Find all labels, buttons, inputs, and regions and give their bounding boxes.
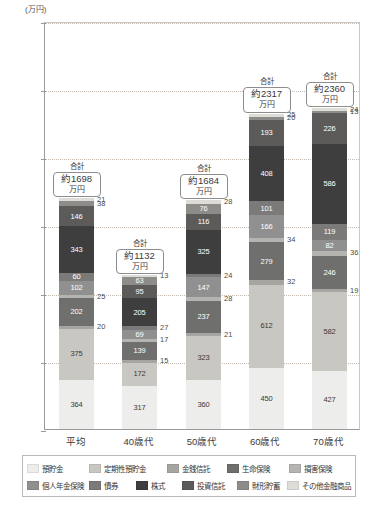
- bar-segment[interactable]: 63: [122, 277, 157, 286]
- bar-segment[interactable]: 226: [312, 113, 347, 144]
- bar-segment[interactable]: 237: [186, 301, 221, 333]
- bar-segment[interactable]: 20: [249, 117, 284, 120]
- chart-root: (万円) 3643752020225102603431463821合計約1698…: [0, 0, 376, 505]
- bar-segment[interactable]: 28: [186, 200, 221, 204]
- bar-segment[interactable]: 21: [186, 333, 221, 336]
- legend-row-2: 個人年金保険債券株式投資信託財形貯蓄その他金融商品: [27, 477, 351, 494]
- segment-value-label: 36: [350, 250, 358, 258]
- total-number: 約1684: [188, 175, 219, 186]
- chart-legend: 預貯金定期性預貯金金銭信託生命保険損害保険 個人年金保険債券株式投資信託財形貯蓄…: [22, 455, 356, 497]
- total-unit: 万円: [118, 262, 162, 271]
- total-value: 約1684万円: [180, 174, 228, 199]
- bar-segment[interactable]: 279: [249, 242, 284, 280]
- bar-segment[interactable]: 20: [59, 326, 94, 329]
- bar-segment[interactable]: 60: [59, 273, 94, 281]
- bar-segment[interactable]: 21: [59, 198, 94, 201]
- bar-segment[interactable]: 38: [59, 201, 94, 206]
- bar-segment[interactable]: 360: [186, 380, 221, 429]
- bar-segment[interactable]: 15: [122, 360, 157, 362]
- bar-segment[interactable]: 13: [312, 111, 347, 113]
- legend-item-株式[interactable]: 株式: [136, 480, 182, 491]
- total-caption: 合計: [180, 162, 228, 173]
- legend-swatch-icon: [89, 481, 101, 490]
- bar-segment[interactable]: 325: [186, 230, 221, 274]
- bar-segment[interactable]: 193: [249, 120, 284, 146]
- bar-segment[interactable]: 69: [122, 330, 157, 339]
- bar-segment[interactable]: 146: [59, 206, 94, 226]
- bar-segment[interactable]: 102: [59, 281, 94, 295]
- legend-item-個人年金保険[interactable]: 個人年金保険: [27, 480, 89, 491]
- segment-value-label: 34: [287, 236, 295, 244]
- bar-segment[interactable]: 317: [122, 386, 157, 429]
- legend-item-その他金融商品[interactable]: その他金融商品: [287, 480, 351, 491]
- legend-item-損害保険[interactable]: 損害保険: [289, 463, 351, 474]
- legend-item-定期性預貯金[interactable]: 定期性預貯金: [89, 463, 167, 474]
- bar-segment[interactable]: 427: [312, 371, 347, 429]
- legend-item-投資信託[interactable]: 投資信託: [182, 480, 237, 491]
- legend-item-生命保険[interactable]: 生命保険: [227, 463, 289, 474]
- segment-value-label: 28: [224, 295, 232, 303]
- bar-segment[interactable]: 139: [122, 342, 157, 361]
- bar-segment[interactable]: 612: [249, 285, 284, 368]
- bar-segment[interactable]: 246: [312, 256, 347, 289]
- bar-segment[interactable]: 95: [122, 285, 157, 298]
- bar-segment[interactable]: 116: [186, 214, 221, 230]
- bar-segment[interactable]: 28: [186, 297, 221, 301]
- bar-segment[interactable]: 147: [186, 277, 221, 297]
- bar-segment[interactable]: 450: [249, 368, 284, 429]
- bar-segment[interactable]: 408: [249, 146, 284, 201]
- legend-swatch-icon: [27, 481, 39, 490]
- x-axis-label-50歳代: 50歳代: [167, 434, 237, 448]
- total-value: 約1132万円: [116, 249, 164, 274]
- legend-item-預貯金[interactable]: 預貯金: [27, 463, 89, 474]
- segment-value-label: 364: [71, 401, 83, 409]
- bar-segment[interactable]: 582: [312, 292, 347, 371]
- bar-segment[interactable]: 27: [122, 326, 157, 330]
- bar-segment[interactable]: 172: [122, 363, 157, 386]
- bar-segment[interactable]: 586: [312, 144, 347, 224]
- total-caption: 合計: [53, 160, 101, 171]
- bar-segment[interactable]: 364: [59, 380, 94, 430]
- bar-segment[interactable]: 101: [249, 201, 284, 215]
- bar-segment[interactable]: 25: [249, 114, 284, 117]
- bar-segment[interactable]: 202: [59, 298, 94, 325]
- legend-item-債券[interactable]: 債券: [89, 480, 135, 491]
- bar-segment[interactable]: 25: [59, 295, 94, 298]
- bar-40歳代[interactable]: 31717215139176927205956313: [122, 275, 157, 429]
- legend-swatch-icon: [227, 464, 239, 473]
- segment-value-label: 69: [136, 331, 144, 339]
- bar-segment[interactable]: 24: [186, 274, 221, 277]
- bar-segment[interactable]: 323: [186, 336, 221, 380]
- bar-segment[interactable]: 166: [249, 215, 284, 238]
- bar-50歳代[interactable]: 3603232123728147243251167628: [186, 200, 221, 429]
- segment-value-label: 27: [160, 324, 168, 332]
- legend-row-1: 預貯金定期性預貯金金銭信託生命保険損害保険: [27, 460, 351, 477]
- bar-segment[interactable]: 375: [59, 329, 94, 380]
- legend-label: 株式: [151, 480, 165, 491]
- bar-segment[interactable]: 19: [312, 289, 347, 292]
- bar-70歳代[interactable]: 4275821924636821195862261324: [312, 108, 347, 429]
- segment-value-label: 21: [224, 331, 232, 339]
- bar-segment[interactable]: 82: [312, 240, 347, 251]
- legend-item-金銭信託[interactable]: 金銭信託: [167, 463, 227, 474]
- segment-value-label: 119: [324, 228, 335, 236]
- bar-平均[interactable]: 3643752020225102603431463821: [59, 198, 94, 429]
- segment-value-label: 76: [200, 205, 208, 213]
- legend-label: 財形貯蓄: [252, 480, 280, 491]
- y-axis-tick-mark: [41, 363, 46, 364]
- bar-segment[interactable]: 34: [249, 238, 284, 243]
- bar-segment[interactable]: 17: [122, 339, 157, 341]
- bar-segment[interactable]: 119: [312, 224, 347, 240]
- bar-segment[interactable]: 343: [59, 226, 94, 273]
- bar-segment[interactable]: 32: [249, 280, 284, 284]
- bar-segment[interactable]: 24: [312, 108, 347, 111]
- legend-item-財形貯蓄[interactable]: 財形貯蓄: [237, 480, 287, 491]
- bar-segment[interactable]: 13: [122, 275, 157, 277]
- segment-value-label: 323: [198, 354, 210, 362]
- bar-segment[interactable]: 76: [186, 204, 221, 214]
- total-number: 約2317: [251, 88, 282, 99]
- bar-segment[interactable]: 205: [122, 298, 157, 326]
- total-caption: 合計: [116, 237, 164, 248]
- bar-segment[interactable]: 36: [312, 251, 347, 256]
- bar-60歳代[interactable]: 45061232279341661014081932025: [249, 114, 284, 429]
